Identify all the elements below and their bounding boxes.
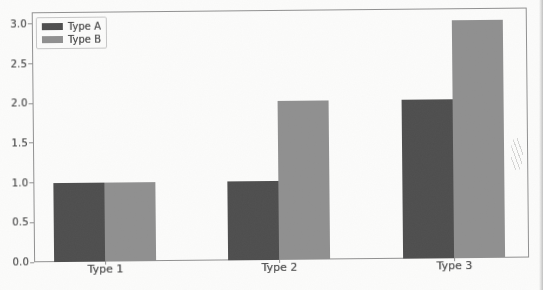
y-tick-label: 0.0 — [1, 256, 29, 268]
y-tick-mark — [29, 103, 33, 104]
legend: Type AType B — [36, 17, 107, 50]
y-tick-mark — [29, 143, 33, 144]
legend-label: Type A — [68, 21, 101, 32]
bar-type-a-type-2 — [228, 181, 280, 261]
scanned-bar-chart: 0.00.51.01.52.02.53.0Type 1Type 2Type 3T… — [0, 0, 543, 290]
scan-artifact-right-edge — [539, 0, 543, 290]
legend-swatch-type-a — [42, 23, 63, 30]
y-tick-label: 0.5 — [1, 217, 29, 229]
x-tick-label: Type 2 — [234, 260, 324, 274]
y-tick-label: 3.0 — [0, 18, 27, 30]
bar-type-a-type-3 — [402, 100, 455, 259]
y-tick-label: 1.0 — [0, 177, 28, 189]
bar-type-b-type-1 — [105, 182, 157, 262]
y-tick-label: 2.5 — [0, 58, 27, 70]
legend-swatch-type-b — [42, 36, 63, 43]
x-tick-label: Type 3 — [409, 259, 499, 273]
bar-type-a-type-1 — [54, 182, 106, 262]
x-tick-label: Type 1 — [61, 262, 151, 276]
y-tick-mark — [28, 24, 32, 25]
y-tick-mark — [30, 222, 34, 223]
y-tick-label: 2.0 — [0, 98, 28, 110]
bar-type-b-type-3 — [452, 20, 505, 259]
legend-entry: Type A — [42, 21, 101, 33]
y-tick-mark — [29, 182, 33, 183]
bar-type-b-type-2 — [278, 101, 331, 260]
y-tick-mark — [30, 262, 34, 263]
chart-canvas: 0.00.51.01.52.02.53.0Type 1Type 2Type 3T… — [0, 0, 543, 290]
legend-entry: Type B — [42, 34, 101, 46]
y-tick-label: 1.5 — [0, 137, 28, 149]
y-tick-mark — [28, 63, 32, 64]
legend-label: Type B — [68, 34, 101, 45]
scan-artifact-smudge — [511, 138, 523, 170]
